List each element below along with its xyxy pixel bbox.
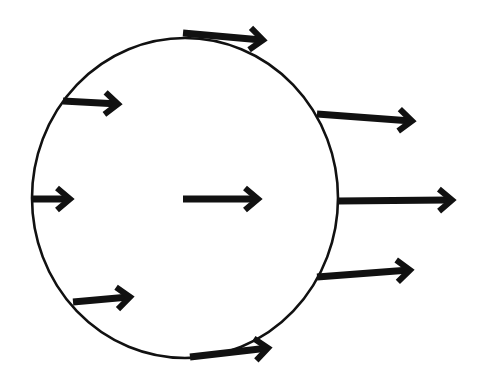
- arrow-upper-left-icon: [63, 92, 118, 114]
- arrow-left-icon: [33, 188, 70, 210]
- arrow-right-upper-icon: [317, 109, 412, 131]
- arrow-center-icon: [183, 188, 258, 210]
- arrow-group: [33, 28, 452, 361]
- arrow-right-middle-icon: [338, 189, 452, 211]
- arrow-lower-left-icon: [73, 287, 130, 309]
- arrow-right-lower-icon: [317, 260, 410, 282]
- arrow-bottom-icon: [190, 339, 268, 361]
- velocity-field-diagram: [0, 0, 489, 381]
